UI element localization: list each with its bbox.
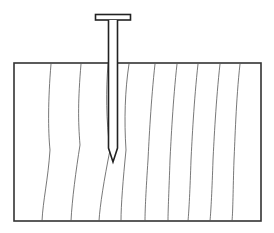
nail-shank [109, 20, 118, 162]
diagram-canvas: Nail driven into wood block [0, 0, 274, 233]
nail-head [96, 15, 131, 21]
wood-block [14, 63, 261, 221]
nail-in-wood-diagram [0, 0, 274, 233]
